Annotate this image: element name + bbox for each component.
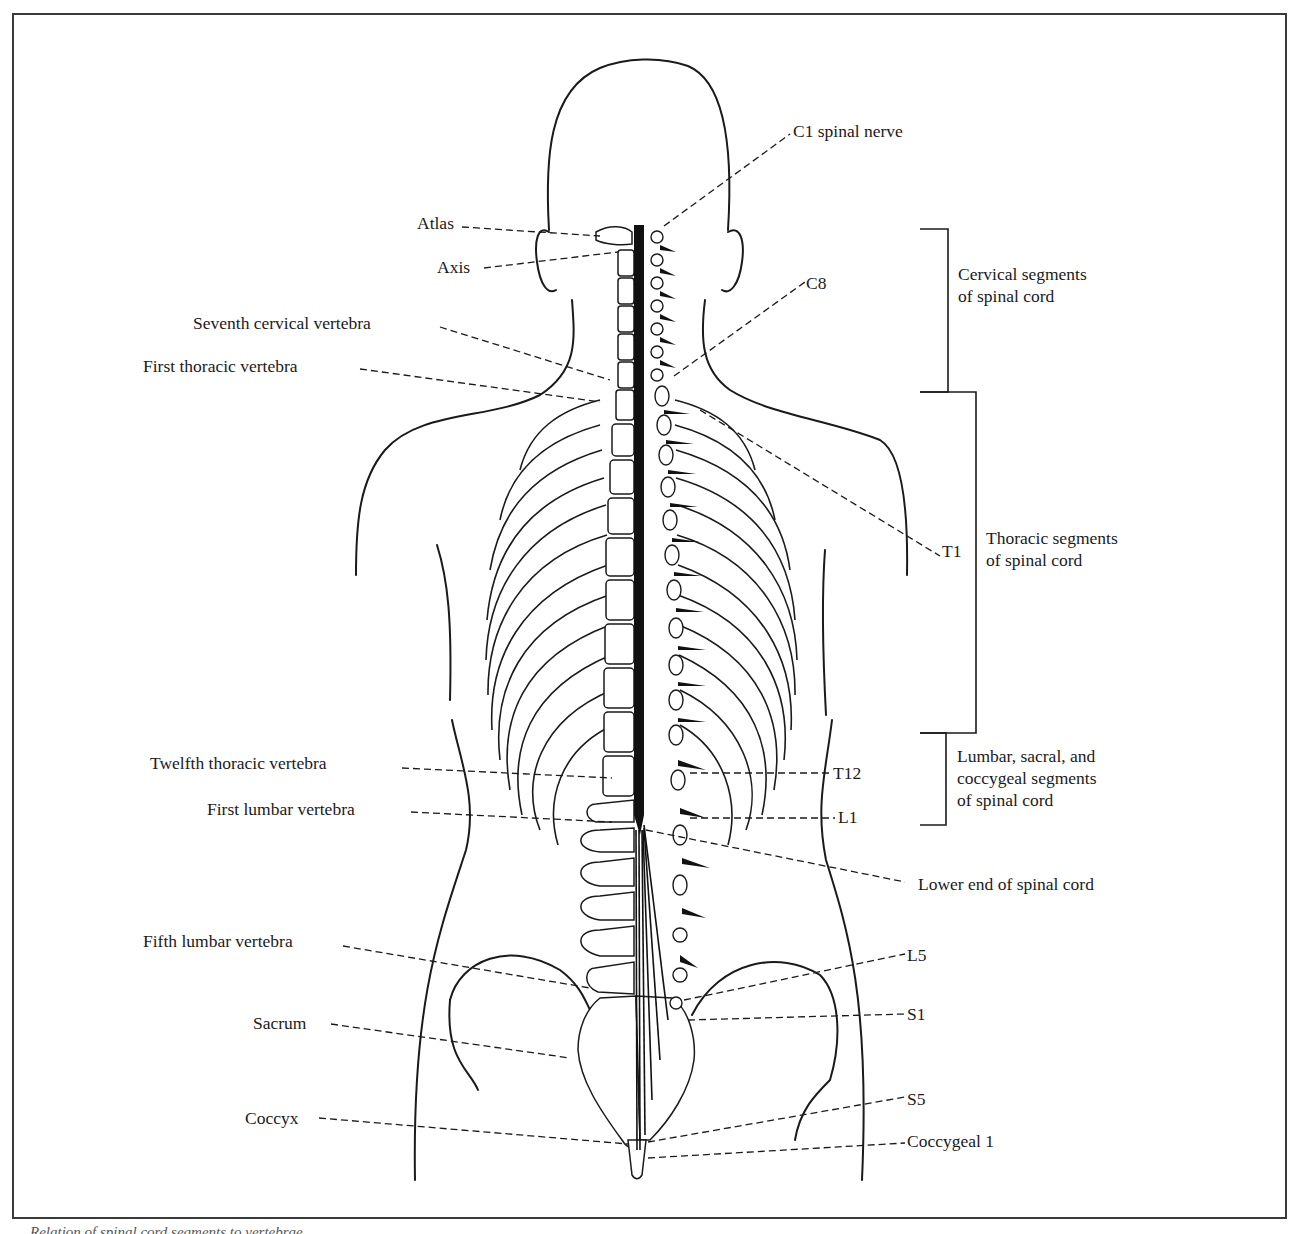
label-first-thoracic-vertebra: First thoracic vertebra: [143, 355, 298, 377]
label-coccygeal-1: Coccygeal 1: [907, 1130, 994, 1152]
label-cervical-line-1: Cervical segments: [958, 263, 1087, 285]
label-s1: S1: [907, 1003, 925, 1025]
label-lumbar-sacral-coccygeal-segments: Lumbar, sacral, and coccygeal segments o…: [957, 745, 1096, 811]
rib-cage-right: [675, 400, 797, 845]
segment-brackets: [920, 229, 976, 825]
label-fifth-lumbar-vertebra: Fifth lumbar vertebra: [143, 930, 293, 952]
cervical-ganglia: [651, 231, 663, 381]
spine-anatomy-illustration: [0, 0, 1302, 1234]
label-lumbar-line-1: Lumbar, sacral, and: [957, 745, 1096, 767]
nerve-roots: [651, 231, 687, 1009]
label-t12: T12: [833, 762, 861, 784]
label-lumbar-line-3: of spinal cord: [957, 789, 1096, 811]
label-sacrum: Sacrum: [253, 1012, 306, 1034]
rib-cage-left: [486, 400, 613, 845]
label-axis: Axis: [437, 256, 470, 278]
label-first-lumbar-vertebra: First lumbar vertebra: [207, 798, 355, 820]
label-lumbar-line-2: coccygeal segments: [957, 767, 1096, 789]
label-lower-end-of-spinal-cord: Lower end of spinal cord: [918, 873, 1094, 895]
label-coccyx: Coccyx: [245, 1107, 298, 1129]
label-cervical-line-2: of spinal cord: [958, 285, 1087, 307]
thoracic-ganglia: [655, 386, 685, 790]
label-cervical-segments: Cervical segments of spinal cord: [958, 263, 1087, 307]
label-atlas: Atlas: [417, 212, 454, 234]
label-thoracic-segments: Thoracic segments of spinal cord: [986, 527, 1118, 571]
label-l5: L5: [907, 944, 926, 966]
label-c8: C8: [806, 272, 826, 294]
lumbar-sacral-bracket: [920, 733, 946, 825]
label-twelfth-thoracic-vertebra: Twelfth thoracic vertebra: [150, 752, 327, 774]
lumbar-ganglia: [670, 825, 687, 1009]
label-thoracic-line-2: of spinal cord: [986, 549, 1118, 571]
figure-caption: Relation of spinal cord segments to vert…: [30, 1222, 303, 1234]
label-seventh-cervical-vertebra: Seventh cervical vertebra: [193, 312, 371, 334]
label-s5: S5: [907, 1088, 925, 1110]
label-l1: L1: [838, 806, 857, 828]
label-t1: T1: [942, 540, 961, 562]
nerve-root-shadows: [660, 245, 710, 968]
label-thoracic-line-1: Thoracic segments: [986, 527, 1118, 549]
label-c1-spinal-nerve: C1 spinal nerve: [793, 120, 903, 142]
cervical-bracket: [920, 229, 948, 392]
thoracic-bracket: [920, 392, 976, 733]
